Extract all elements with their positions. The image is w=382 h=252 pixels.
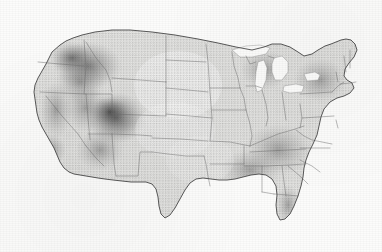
boundary-de-md xyxy=(336,120,338,128)
boundary-al-fl xyxy=(262,192,274,194)
us-map-svg xyxy=(0,0,382,252)
us-thematic-map xyxy=(0,0,382,252)
map-page xyxy=(0,0,382,252)
